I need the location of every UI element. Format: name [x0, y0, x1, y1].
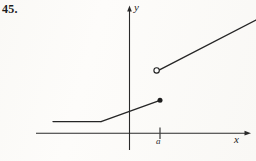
x-axis-arrowhead — [245, 131, 252, 136]
x-axis-label: x — [234, 133, 239, 145]
open-endpoint-circle — [154, 68, 159, 73]
curve-branch-right — [159, 20, 256, 70]
closed-endpoint-dot — [158, 98, 163, 103]
x-axis-point-a-label: a — [156, 136, 161, 146]
y-axis-arrowhead — [127, 6, 132, 12]
figure-page: 45. y x a — [0, 0, 256, 161]
y-axis-label: y — [134, 1, 139, 13]
graph-plot — [0, 0, 256, 161]
curve-branch-middle — [101, 100, 160, 121]
